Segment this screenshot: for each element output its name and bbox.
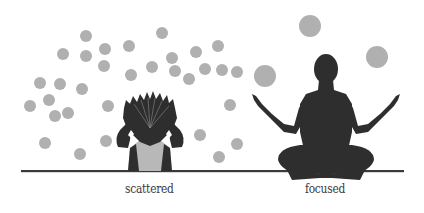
scattered-circle bbox=[49, 110, 61, 122]
scattered-circle bbox=[146, 61, 158, 73]
scattered-circle bbox=[125, 69, 137, 81]
scattered-person-figure bbox=[116, 91, 183, 171]
scattered-circle bbox=[74, 148, 86, 160]
focused-circle bbox=[254, 65, 276, 87]
label-scattered: scattered bbox=[125, 181, 174, 196]
scattered-circle bbox=[57, 48, 69, 60]
scattered-circle bbox=[194, 129, 206, 141]
scattered-circle bbox=[156, 27, 168, 39]
illustration-canvas bbox=[0, 0, 424, 213]
scattered-circle bbox=[190, 46, 202, 58]
label-focused: focused bbox=[305, 181, 345, 196]
scattered-circle bbox=[212, 40, 224, 52]
scattered-circle bbox=[34, 77, 46, 89]
focused-circle bbox=[299, 15, 321, 37]
scattered-circle bbox=[102, 100, 114, 112]
scattered-circle bbox=[183, 73, 195, 85]
scattered-circle bbox=[123, 40, 135, 52]
scattered-circle bbox=[39, 137, 51, 149]
scattered-circle bbox=[76, 83, 88, 95]
scattered-circle bbox=[80, 50, 92, 62]
scattered-circle bbox=[169, 65, 181, 77]
scattered-circle bbox=[199, 63, 211, 75]
scattered-circle bbox=[99, 43, 111, 55]
scattered-circle bbox=[231, 138, 243, 150]
scattered-circle bbox=[80, 30, 92, 42]
scattered-circle bbox=[166, 52, 178, 64]
scattered-circle bbox=[213, 151, 225, 163]
scattered-circle bbox=[216, 64, 228, 76]
scattered-circle bbox=[54, 78, 66, 90]
scattered-thoughts-circles bbox=[24, 27, 243, 163]
scattered-circle bbox=[100, 135, 112, 147]
scattered-circle bbox=[62, 107, 74, 119]
scattered-circle bbox=[231, 66, 243, 78]
scattered-circle bbox=[24, 100, 36, 112]
focused-circle bbox=[366, 46, 388, 68]
scattered-circle bbox=[43, 94, 55, 106]
scattered-circle bbox=[98, 60, 110, 72]
scattered-circle bbox=[224, 99, 236, 111]
